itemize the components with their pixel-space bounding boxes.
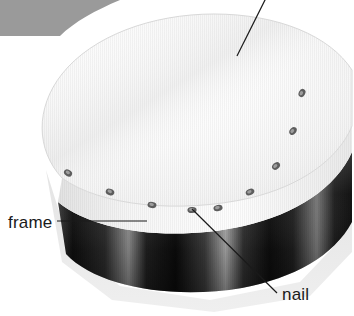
label-nail: nail [282,285,309,304]
drum-diagram-figure: frame nail [0,0,354,316]
drum-illustration: frame nail [0,0,354,316]
label-frame: frame [8,213,52,232]
